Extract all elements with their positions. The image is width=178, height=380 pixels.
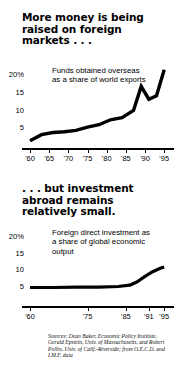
page-title-second: . . . but investment abroad remains rela… (22, 183, 172, 218)
x-tick-label: '90 (140, 155, 150, 163)
x-tick-mark (145, 149, 146, 153)
chart-panel-second: 20%15105 Foreign direct investment as a … (0, 222, 178, 334)
y-tick-label: 10 (16, 107, 24, 115)
source-citation: Sources: Dean Baker, Economic Policy Ins… (48, 333, 172, 359)
y-tick-label: 5 (20, 124, 24, 132)
axis-line (22, 148, 174, 150)
x-tick-label: '75 (83, 155, 93, 163)
axis-line (22, 306, 174, 308)
x-tick-mark (30, 307, 31, 311)
x-axis-second: '60'75'85'91'95 (22, 306, 174, 324)
x-tick-mark (68, 149, 69, 153)
chart-panel-first: 20%15105 Funds obtained overseas as a sh… (0, 58, 178, 178)
page-title-first: More money is being raised on foreign ma… (22, 12, 172, 47)
x-tick-mark (49, 149, 50, 153)
x-tick-label: '65 (44, 155, 54, 163)
data-line (30, 267, 164, 288)
x-tick-mark (149, 307, 150, 311)
y-tick-label: 20% (9, 71, 24, 79)
x-tick-label: '91 (144, 313, 154, 321)
x-tick-mark (126, 149, 127, 153)
x-tick-label: '70 (63, 155, 73, 163)
plot-area-first (26, 58, 172, 150)
x-tick-label: '95 (159, 155, 169, 163)
x-tick-label: '75 (83, 313, 93, 321)
line-series-second (26, 222, 172, 308)
y-tick-label: 5 (20, 283, 24, 291)
x-tick-label: '85 (121, 155, 131, 163)
x-tick-label: '60 (25, 155, 35, 163)
x-tick-mark (30, 149, 31, 153)
x-tick-mark (107, 149, 108, 153)
line-series-first (26, 58, 172, 150)
x-tick-mark (126, 307, 127, 311)
plot-area-second (26, 222, 172, 308)
y-tick-label: 15 (16, 89, 24, 97)
x-tick-mark (88, 307, 89, 311)
x-tick-mark (164, 307, 165, 311)
x-tick-mark (88, 149, 89, 153)
y-tick-label: 20% (9, 233, 24, 241)
y-tick-label: 10 (16, 266, 24, 274)
x-tick-mark (164, 149, 165, 153)
data-line (30, 70, 164, 141)
x-tick-label: '95 (159, 313, 169, 321)
newspaper-chart-graphic: More money is being raised on foreign ma… (0, 0, 178, 380)
x-tick-label: '80 (102, 155, 112, 163)
y-tick-label: 15 (16, 250, 24, 258)
x-axis-first: '60'65'70'75'80'85'90'95 (22, 148, 174, 166)
x-tick-label: '85 (121, 313, 131, 321)
x-tick-label: '60 (25, 313, 35, 321)
